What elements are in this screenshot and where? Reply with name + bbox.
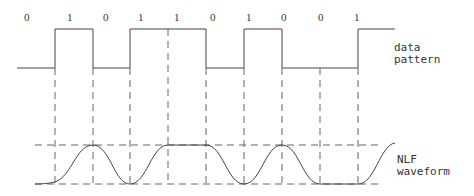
bit-label: 1 — [67, 11, 73, 23]
data-pattern-label: data pattern — [394, 42, 440, 66]
bit-label: 0 — [210, 11, 216, 23]
bit-label: 0 — [103, 11, 109, 23]
data-pattern-label-line2: pattern — [394, 54, 440, 66]
bit-label: 0 — [24, 11, 30, 23]
bit-label: 1 — [354, 11, 360, 23]
data-pattern-signal — [17, 29, 395, 68]
nlf-waveform-label-line2: waveform — [397, 166, 450, 178]
bit-label: 1 — [246, 11, 252, 23]
nlf-waveform-label: NLF waveform — [397, 154, 450, 178]
bit-label: 0 — [281, 11, 287, 23]
bit-label: 1 — [174, 11, 180, 23]
nlf-waveform-signal — [35, 143, 395, 184]
bit-label: 0 — [318, 11, 324, 23]
bit-label: 1 — [138, 11, 144, 23]
